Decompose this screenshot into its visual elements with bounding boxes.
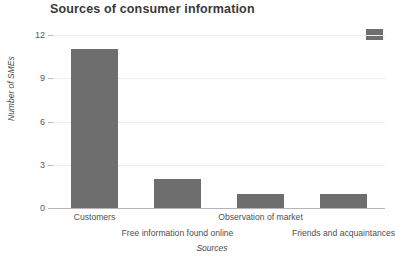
x-axis-line [53,208,385,209]
bar [154,179,201,208]
y-axis-tick-mark [48,165,53,166]
x-axis-tick-label: Customers [74,212,116,222]
x-axis-tick-label: Observation of market [218,212,303,222]
y-axis-tick-label: 12 [35,30,45,40]
y-axis-tick-mark [48,78,53,79]
y-axis-tick-mark [48,35,53,36]
y-axis-tick-mark [48,208,53,209]
x-axis-tick-label: Friends and acquaintances [292,228,395,238]
x-axis-title: Sources [196,243,227,253]
bar [71,49,118,208]
x-axis-tick-label: Free information found online [122,228,234,238]
y-axis-title: Number of SMEs [6,56,16,121]
bar [237,194,284,208]
chart-title: Sources of consumer information [50,2,255,16]
y-axis-tick-label: 6 [40,117,45,127]
y-axis-tick-mark [48,122,53,123]
gridline [53,35,385,36]
y-axis-tick-label: 0 [40,203,45,213]
plot-area: 036912 [53,35,385,208]
bar [320,194,367,208]
y-axis-tick-label: 3 [40,160,45,170]
y-axis-tick-label: 9 [40,73,45,83]
